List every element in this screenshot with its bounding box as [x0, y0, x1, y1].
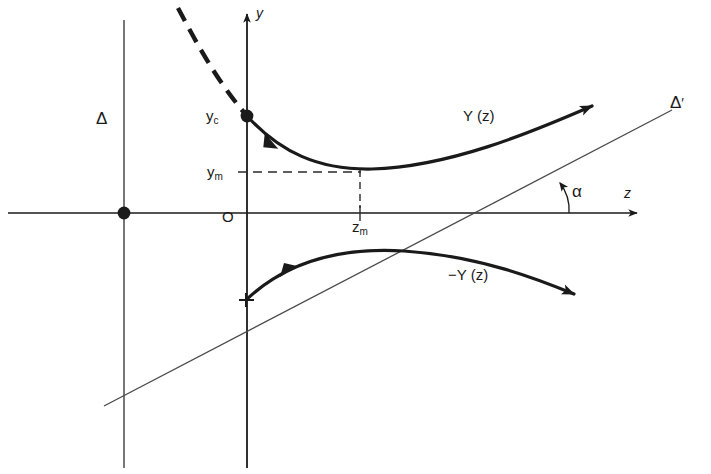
label-z-m-base: z — [352, 218, 360, 235]
label-curve-lower: −Y (z) — [448, 267, 488, 282]
alpha-angle-arc — [560, 183, 569, 213]
label-z-m: zm — [352, 219, 368, 237]
label-y-c: yc — [206, 108, 219, 126]
label-curve-upper: Y (z) — [463, 108, 494, 123]
marker-dot-delta-on-z-axis — [118, 207, 131, 220]
label-y-m: ym — [207, 164, 223, 182]
label-delta-prime: Δ′ — [670, 94, 684, 111]
label-delta: Δ — [96, 110, 107, 127]
label-y-m-base: y — [207, 163, 215, 180]
curve-lower-direction-arrowhead — [280, 263, 297, 277]
curve-lower-minus-Y-of-z — [246, 250, 574, 300]
curve-upper-dashed-branch — [178, 8, 247, 116]
label-y-c-subscript: c — [214, 115, 219, 126]
marker-dot-yc — [241, 110, 254, 123]
label-y-c-base: y — [206, 107, 214, 124]
diagram-svg — [0, 0, 711, 474]
label-origin: O — [222, 209, 234, 224]
label-alpha: α — [572, 183, 582, 200]
label-z-m-subscript: m — [360, 226, 369, 237]
curve-upper-Y-of-z — [247, 106, 592, 169]
delta-prime-oblique-line — [104, 110, 672, 406]
label-z-axis: z — [624, 186, 631, 200]
label-y-axis: y — [256, 6, 263, 20]
figure-canvas: Δ Δ′ α y z O yc ym zm Y (z) −Y (z) — [0, 0, 711, 474]
label-delta-prime-mark: ′ — [681, 95, 684, 111]
label-y-m-subscript: m — [215, 171, 224, 182]
label-delta-prime-base: Δ — [670, 93, 681, 112]
